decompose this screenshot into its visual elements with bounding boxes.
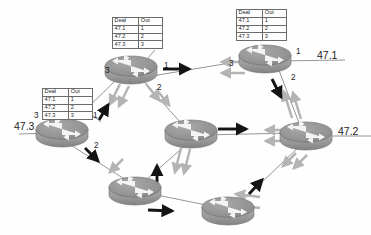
grey-arrow-bl-left-a [110, 159, 123, 172]
column-header-out: Out [263, 10, 287, 18]
table-row: 47.3 3 [237, 33, 287, 41]
port-label-top-center-1: 1 [164, 62, 169, 70]
router-right[interactable] [280, 121, 332, 150]
table-row: 47.2 2 [43, 104, 93, 112]
port-label-top-right-3: 3 [229, 60, 234, 68]
cell-dest: 47.2 [43, 104, 69, 112]
grey-arrow-right-tr-a [284, 92, 292, 118]
cell-dest: 47.3 [43, 112, 69, 120]
grey-arrow-right-br-a [283, 153, 296, 166]
table-row: 47.3 3 [113, 41, 163, 49]
port-label-left-2: 2 [94, 142, 99, 150]
black-arrow-bl-br [148, 210, 172, 211]
cell-dest: 47.1 [237, 17, 263, 25]
black-arrow-br-right [249, 180, 262, 194]
cell-out: 2 [69, 104, 93, 112]
port-label-top-right-1: 1 [296, 48, 301, 56]
grey-arrow-br-bl-a [236, 194, 260, 197]
port-label-left-1: 1 [93, 112, 98, 120]
forwarding-table-top-center: Deal Out 47.1 1 47.2 2 47.3 3 [112, 17, 163, 49]
router-top-right[interactable] [239, 44, 291, 73]
grey-arrow-tc-left-b [119, 86, 129, 106]
cell-dest: 47.2 [237, 25, 263, 33]
black-arrow-left-tc [99, 105, 108, 120]
network-diagram: Deal Out 47.1 1 47.2 2 47.3 3 Deal Out [0, 0, 371, 235]
column-header-out: Out [69, 89, 93, 97]
black-arrow-tr-right [272, 79, 281, 97]
cell-out: 2 [263, 25, 287, 33]
column-header-out: Out [139, 18, 163, 26]
leader-top-center [148, 50, 155, 58]
table-header-row: Deal Out [113, 18, 163, 26]
table-row: 47.2 2 [113, 33, 163, 41]
cell-dest: 47.3 [113, 41, 139, 49]
router-center[interactable] [165, 119, 217, 148]
table-row: 47.1 1 [43, 96, 93, 104]
cell-dest: 47.3 [237, 33, 263, 41]
cell-out: 2 [139, 33, 163, 41]
network-label-47-3: 47.3 [14, 121, 34, 132]
port-label-top-center-3: 3 [105, 67, 110, 75]
cell-dest: 47.1 [113, 25, 139, 33]
forwarding-table-left: Deal Out 47.1 1 47.2 2 47.3 3 [42, 88, 93, 120]
table-header-row: Deal Out [237, 10, 287, 18]
port-label-left-3: 3 [34, 112, 39, 120]
network-label-47-2: 47.2 [338, 126, 358, 137]
grey-arrow-right-br-b [294, 155, 307, 168]
cell-out: 3 [263, 33, 287, 41]
cell-dest: 47.1 [43, 96, 69, 104]
table-row: 47.1 1 [113, 25, 163, 33]
grey-arrow-tc-left-a [110, 84, 120, 104]
router-bottom-right[interactable] [202, 196, 254, 225]
forwarding-table-top-right: Deal Out 47.1 1 47.2 2 47.3 3 [236, 9, 287, 41]
port-label-top-center-2: 2 [157, 84, 162, 92]
network-label-47-1: 47.1 [317, 50, 337, 61]
table-header-row: Deal Out [43, 89, 93, 97]
router-bottom-left[interactable] [109, 176, 161, 205]
column-header-dest: Deal [43, 89, 69, 97]
table-row: 47.2 2 [237, 25, 287, 33]
port-label-top-right-2: 2 [291, 74, 296, 82]
cell-out: 1 [69, 96, 93, 104]
cell-out: 1 [139, 25, 163, 33]
router-top-center[interactable] [105, 55, 157, 84]
cell-dest: 47.2 [113, 33, 139, 41]
router-left[interactable] [36, 118, 88, 147]
grey-arrow-right-tr-b [293, 93, 301, 119]
cell-out: 3 [69, 112, 93, 120]
cell-out: 3 [139, 41, 163, 49]
table-row: 47.3 3 [43, 112, 93, 120]
column-header-dest: Deal [237, 10, 263, 18]
cell-out: 1 [263, 17, 287, 25]
grey-arrow-center-bl-b [184, 149, 190, 173]
table-row: 47.1 1 [237, 17, 287, 25]
column-header-dest: Deal [113, 18, 139, 26]
